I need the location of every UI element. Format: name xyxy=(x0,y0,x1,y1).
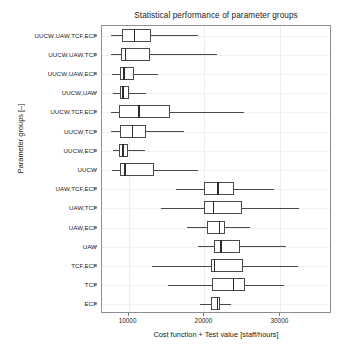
whisker-low xyxy=(111,35,122,36)
y-tick-mark xyxy=(94,265,97,266)
whisker-high xyxy=(245,285,284,286)
x-tick-mark xyxy=(128,313,129,316)
box xyxy=(204,201,243,214)
whisker-high xyxy=(151,35,197,36)
x-tick-label: 30000 xyxy=(270,317,288,324)
whisker-low xyxy=(200,304,211,305)
boxplot-row xyxy=(102,295,330,313)
median-line xyxy=(132,125,134,138)
y-tick-label: UAW,TCF xyxy=(69,204,97,211)
boxplot-row xyxy=(102,199,330,217)
y-tick-label: UAW,ECF xyxy=(69,223,97,230)
y-tick-mark xyxy=(94,188,97,189)
x-tick-label: 10000 xyxy=(119,317,137,324)
y-tick-mark xyxy=(94,207,97,208)
median-line xyxy=(122,144,124,157)
whisker-high xyxy=(240,246,286,247)
whisker-low xyxy=(112,170,120,171)
x-tick-label: 20000 xyxy=(195,317,213,324)
boxplot-row xyxy=(102,238,330,256)
median-line xyxy=(220,240,222,253)
whisker-high xyxy=(225,227,250,228)
box xyxy=(204,182,234,195)
y-tick-label: UUCW,UAW,TCF,ECF xyxy=(35,31,97,38)
whisker-high xyxy=(150,54,217,55)
y-tick-label: UUCW,UAW,TCF xyxy=(48,50,97,57)
y-tick-mark xyxy=(94,150,97,151)
whisker-low xyxy=(187,227,207,228)
median-line xyxy=(214,259,216,272)
whisker-low xyxy=(111,112,119,113)
whisker-high xyxy=(134,74,158,75)
boxplot-row xyxy=(102,103,330,121)
y-tick-label: UAW,TCF,ECF xyxy=(55,185,97,192)
whisker-high xyxy=(128,150,145,151)
box xyxy=(214,240,241,253)
whisker-high xyxy=(129,93,146,94)
boxplot-row xyxy=(102,161,330,179)
boxplot-row xyxy=(102,276,330,294)
median-line xyxy=(125,48,127,61)
whisker-low xyxy=(161,208,204,209)
y-tick-mark xyxy=(94,111,97,112)
median-line xyxy=(219,221,221,234)
median-line xyxy=(134,29,136,42)
boxplot-row xyxy=(102,257,330,275)
y-tick-mark xyxy=(94,73,97,74)
box xyxy=(207,221,225,234)
y-tick-mark xyxy=(94,54,97,55)
box xyxy=(120,67,134,80)
y-tick-label: UUCW,UAW,ECF xyxy=(48,70,97,77)
y-tick-label: UUCW,TCF,ECF xyxy=(50,108,97,115)
whisker-low xyxy=(111,131,120,132)
whisker-low xyxy=(198,246,214,247)
median-line xyxy=(124,163,126,176)
whisker-low xyxy=(113,93,120,94)
median-line xyxy=(217,297,219,310)
boxplot-row xyxy=(102,180,330,198)
box xyxy=(212,278,245,291)
y-tick-mark xyxy=(94,92,97,93)
boxplot-row xyxy=(102,84,330,102)
whisker-high xyxy=(220,304,231,305)
whisker-high xyxy=(170,112,244,113)
whisker-low xyxy=(112,74,120,75)
page-title: Statistical performance of parameter gro… xyxy=(101,11,331,20)
x-tick-mark xyxy=(203,313,204,316)
whisker-high xyxy=(243,266,298,267)
x-tick-mark xyxy=(279,313,280,316)
boxplot-row xyxy=(102,123,330,141)
boxplot-row xyxy=(102,65,330,83)
boxplot-figure: Statistical performance of parameter gro… xyxy=(0,0,352,356)
boxplot-row xyxy=(102,219,330,237)
whisker-low xyxy=(176,189,205,190)
boxplot-row xyxy=(102,142,330,160)
plot-area xyxy=(101,25,331,313)
whisker-low xyxy=(168,285,212,286)
median-line xyxy=(122,86,124,99)
box xyxy=(119,105,169,118)
y-tick-mark xyxy=(94,284,97,285)
whisker-low xyxy=(111,54,121,55)
whisker-high xyxy=(146,131,184,132)
whisker-high xyxy=(154,170,198,171)
whisker-high xyxy=(234,189,274,190)
whisker-high xyxy=(242,208,298,209)
x-axis-label: Cost function + Test value [staff/hours] xyxy=(101,330,331,339)
y-tick-mark xyxy=(94,227,97,228)
y-tick-label: UUCW,TCF xyxy=(64,127,97,134)
y-tick-label: UUCW,ECF xyxy=(64,146,97,153)
y-tick-mark xyxy=(94,246,97,247)
x-axis-ticks: 100002000030000 xyxy=(101,313,331,329)
y-tick-mark xyxy=(94,169,97,170)
whisker-low xyxy=(152,266,210,267)
y-tick-label: UUCW,UAW xyxy=(62,89,97,96)
median-line xyxy=(233,278,235,291)
box xyxy=(122,29,152,42)
median-line xyxy=(138,105,140,118)
y-tick-mark xyxy=(94,303,97,304)
median-line xyxy=(123,67,125,80)
y-tick-mark xyxy=(94,35,97,36)
median-line xyxy=(213,201,215,214)
y-axis-tick-labels: UUCW,UAW,TCF,ECFUUCW,UAW,TCFUUCW,UAW,ECF… xyxy=(0,25,97,313)
